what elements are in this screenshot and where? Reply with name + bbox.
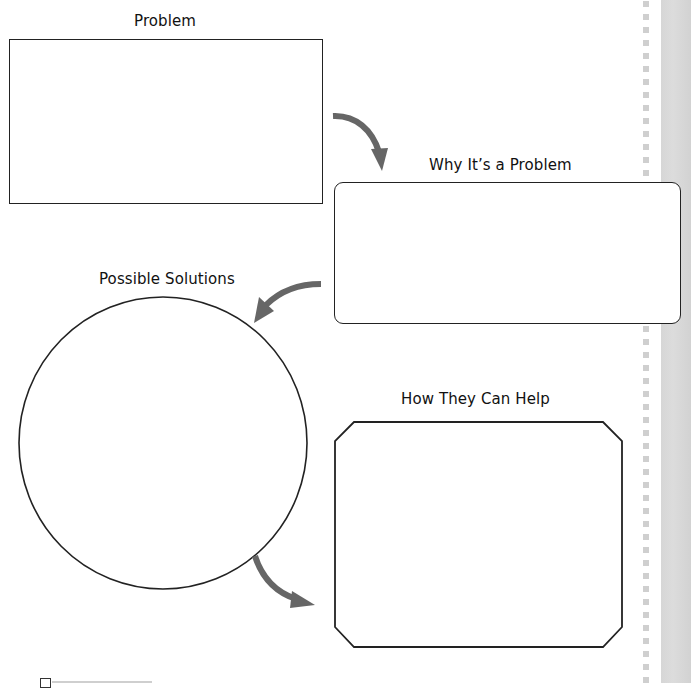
problem-label: Problem <box>134 12 196 30</box>
why-problem-label: Why It’s a Problem <box>429 156 572 174</box>
footer-icon <box>40 678 51 688</box>
curved-arrow-down-left-icon <box>254 284 321 323</box>
curved-arrow-down-right-icon <box>255 556 315 608</box>
curved-arrow-down-right-icon <box>333 116 388 171</box>
why-problem-box[interactable] <box>334 182 681 324</box>
page-margin-band <box>661 0 691 683</box>
footer-rule <box>52 681 152 683</box>
possible-solutions-label: Possible Solutions <box>99 270 235 288</box>
how-they-help-box[interactable] <box>335 422 622 647</box>
how-they-help-label: How They Can Help <box>401 390 550 408</box>
perforation-dots <box>643 0 649 683</box>
possible-solutions-circle[interactable] <box>19 297 307 589</box>
problem-box[interactable] <box>9 39 323 204</box>
